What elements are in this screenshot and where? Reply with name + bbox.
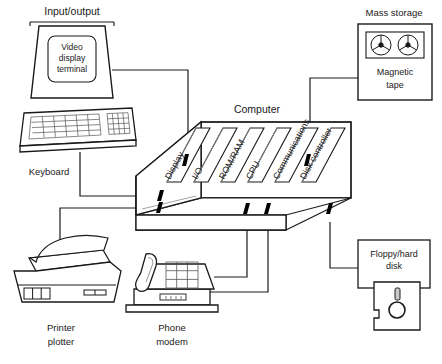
floppy-label-line1: Floppy/hard — [370, 249, 418, 259]
cable-modem-base-to-computer — [210, 222, 268, 292]
modem-indicator-panel — [160, 294, 186, 300]
chassis-front-lip — [136, 215, 286, 230]
group-input-output: Input/output — [30, 5, 114, 26]
tape-label-line1: Magnetic — [377, 67, 414, 77]
floppy-hard-disk[interactable]: Floppy/hard disk — [358, 240, 430, 330]
diagram-canvas: Input/output Video display terminal Keyb… — [0, 0, 442, 364]
group-label-input-output: Input/output — [44, 5, 100, 17]
phone-modem-label-line2: modem — [156, 336, 188, 347]
computer-label: Computer — [234, 103, 281, 115]
printer-button-group — [24, 288, 50, 299]
cable-floppy-to-computer — [330, 222, 358, 268]
phone-modem-label-line1: Phone — [158, 322, 185, 333]
magnetic-tape[interactable]: Magnetic tape — [358, 24, 432, 100]
group-label-mass-storage: Mass storage — [365, 7, 422, 18]
tape-label-line2: tape — [386, 80, 404, 90]
modem-base-front — [126, 305, 218, 312]
computer-chassis[interactable]: Computer Display I/O ROM/RAM — [136, 103, 351, 230]
keyboard-label: Keyboard — [29, 166, 70, 177]
diskette-shutter-icon — [395, 288, 400, 300]
floppy-label-line2: disk — [386, 261, 403, 271]
tape-reel-window — [366, 32, 424, 58]
diskette-hub-icon — [389, 302, 405, 318]
phone-modem[interactable]: Phone modem — [126, 254, 218, 347]
terminal-label-line2: display — [59, 53, 86, 63]
terminal-label-line3: terminal — [57, 64, 87, 74]
terminal-label-line1: Video — [61, 42, 83, 52]
system-diagram: Input/output Video display terminal Keyb… — [0, 0, 442, 364]
keyboard[interactable]: Keyboard — [20, 108, 136, 177]
group-mass-storage: Mass storage — [365, 7, 422, 18]
printer-label-line1: Printer — [47, 322, 75, 333]
printer-plotter[interactable]: Printer plotter — [14, 236, 121, 347]
video-display-terminal[interactable]: Video display terminal — [31, 26, 113, 98]
printer-label-line2: plotter — [48, 336, 74, 347]
